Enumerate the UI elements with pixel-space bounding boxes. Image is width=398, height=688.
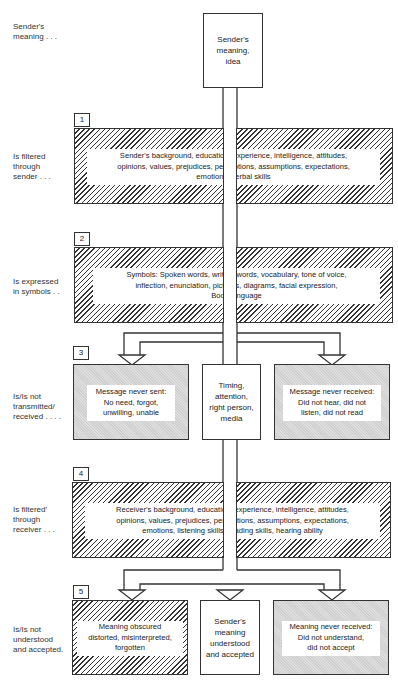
stage-label-transmitted: Is/Is not transmitted/ received . . . . <box>13 392 61 422</box>
channel-through-stage-2 <box>223 247 237 323</box>
meaning-never-received-text: Meaning never received: Did not understa… <box>282 621 380 656</box>
arrow-to-understood <box>217 590 243 600</box>
text-line: No need, forgot, <box>89 398 173 409</box>
timing-attention-box: Timing, attention, right person, media <box>202 364 261 440</box>
split3-right-outer <box>237 333 340 355</box>
stage-label-understood: Is/Is not understood and accepted. <box>13 625 63 655</box>
message-never-received-text: Message never received: Did not hear, di… <box>283 385 381 421</box>
text-line: unwilling, unable <box>89 408 173 419</box>
meaning-obscured-box: Meaning obscured distorted, misinterpret… <box>72 600 188 675</box>
message-never-sent-text: Message never sent: No need, forgot, unw… <box>87 385 175 421</box>
connector-lines <box>0 0 398 688</box>
split3-left-outer <box>124 333 223 355</box>
channel-through-stage-1 <box>223 128 237 204</box>
stage-number-2: 2 <box>74 232 90 246</box>
message-never-sent-box: Message never sent: No need, forgot, unw… <box>73 364 189 440</box>
arrow-to-never-understood <box>319 590 345 600</box>
text-line: forgotten <box>78 643 182 654</box>
text-line: distorted, misinterpreted, <box>78 633 182 644</box>
arrow-to-obscured <box>119 590 145 600</box>
text-line: did not accept <box>284 643 378 654</box>
stage-number-5: 5 <box>73 585 89 599</box>
stage-number-1: 1 <box>74 113 90 127</box>
split5-right-outer <box>237 570 340 590</box>
text-line: Did not understand, <box>284 633 378 644</box>
text-line: Message never sent: <box>89 387 173 398</box>
text-line: listen, did not read <box>285 408 379 419</box>
text-line: Did not hear, did not <box>285 398 379 409</box>
stage-label-symbols: Is expressed in symbols . . <box>13 277 60 297</box>
meaning-understood-box: Sender's meaning understood and accepted <box>200 600 260 675</box>
stage-label-filtered-sender: Is filtered through sender . . . <box>13 152 51 182</box>
senders-meaning-box: Sender's meaning, idea <box>203 13 263 88</box>
meaning-obscured-text: Meaning obscured distorted, misinterpret… <box>77 621 183 656</box>
split3-right-inner <box>237 342 324 355</box>
text-line: Meaning never received: <box>284 622 378 633</box>
stage-label-filtered-receiver: Is filtered' through receiver . . . <box>13 505 55 535</box>
split3-left-inner <box>140 342 223 355</box>
message-never-received-box: Message never received: Did not hear, di… <box>274 364 390 440</box>
split5-left-outer <box>124 570 223 590</box>
stage-number-4: 4 <box>73 467 89 481</box>
stage-label-meaning: Sender's meaning . . . <box>13 22 57 42</box>
channel-through-stage-4 <box>223 482 237 558</box>
stage-number-3: 3 <box>73 346 89 360</box>
meaning-never-received-box: Meaning never received: Did not understa… <box>273 600 389 675</box>
text-line: Message never received: <box>285 387 379 398</box>
text-line: Meaning obscured <box>78 622 182 633</box>
split5-inner-bar <box>140 584 324 590</box>
